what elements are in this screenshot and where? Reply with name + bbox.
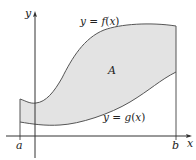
y-axis-label: y [24, 7, 32, 20]
region-a-fill [20, 24, 176, 125]
f-curve-label: y = f(x) [79, 15, 119, 27]
right-bound-label: b [172, 139, 179, 152]
g-curve-label: y = g(x) [102, 111, 145, 123]
x-axis-label: x [187, 137, 194, 150]
area-between-curves-diagram: y x y = f(x) y = g(x) A a b [0, 0, 196, 160]
region-label: A [107, 64, 116, 77]
left-bound-label: a [16, 139, 23, 152]
